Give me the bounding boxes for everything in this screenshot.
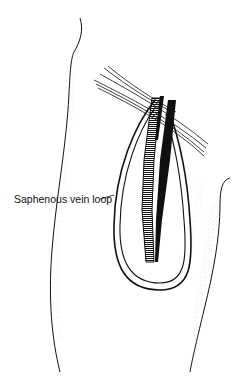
limb-right-outline [180,178,230,372]
label-saphenous-vein-loop: Saphenous vein loop [14,193,112,205]
surgical-illustration: Saphenous vein loop [0,0,246,386]
